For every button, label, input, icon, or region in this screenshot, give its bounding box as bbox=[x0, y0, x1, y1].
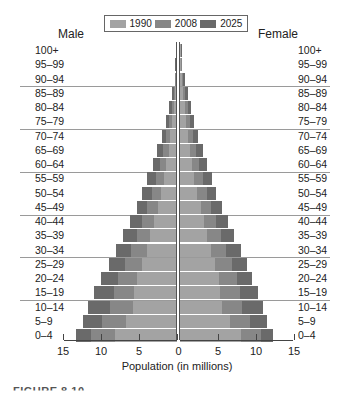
x-tick-label: 5 bbox=[129, 345, 149, 357]
x-tick bbox=[177, 334, 178, 340]
bar-female-1990 bbox=[180, 215, 204, 228]
legend-label-2008: 2008 bbox=[175, 18, 197, 29]
legend-label-2025: 2025 bbox=[220, 18, 242, 29]
bar-male-1990 bbox=[133, 301, 177, 314]
age-label-right: 95–99 bbox=[298, 58, 348, 70]
bar-male-1990 bbox=[154, 215, 177, 228]
age-label-right: 65–69 bbox=[298, 144, 348, 156]
age-label-left: 40–44 bbox=[35, 215, 87, 227]
x-tick bbox=[294, 334, 295, 340]
bar-female-1990 bbox=[180, 315, 230, 328]
age-label-right: 35–39 bbox=[298, 229, 348, 241]
legend: 1990 2008 2025 bbox=[104, 15, 248, 32]
age-label-right: 25–29 bbox=[298, 258, 348, 270]
bar-female-1990 bbox=[180, 172, 194, 185]
age-label-right: 30–34 bbox=[298, 244, 348, 256]
age-label-right: 100+ bbox=[298, 44, 348, 56]
bar-male-1990 bbox=[126, 315, 177, 328]
legend-item-1990: 1990 bbox=[110, 18, 152, 29]
age-label-left: 95–99 bbox=[35, 58, 87, 70]
age-label-left: 15–19 bbox=[35, 286, 87, 298]
bar-female-1990 bbox=[180, 73, 182, 86]
bar-male-1990 bbox=[161, 187, 177, 200]
female-title: Female bbox=[258, 27, 298, 41]
age-label-right: 10–14 bbox=[298, 301, 348, 313]
age-label-right: 20–24 bbox=[298, 272, 348, 284]
age-label-left: 10–14 bbox=[35, 301, 87, 313]
x-axis-left bbox=[64, 340, 177, 341]
bar-female-1990 bbox=[180, 58, 181, 71]
center-axis-right bbox=[179, 42, 180, 340]
x-tick-label: 10 bbox=[246, 345, 266, 357]
x-tick-label: 5 bbox=[208, 345, 228, 357]
male-title: Male bbox=[58, 27, 84, 41]
age-label-left: 45–49 bbox=[35, 201, 87, 213]
x-tick bbox=[218, 334, 219, 340]
x-tick-label: 10 bbox=[91, 345, 111, 357]
bar-female-1990 bbox=[180, 44, 181, 57]
bar-female-1990 bbox=[180, 130, 188, 143]
age-label-left: 100+ bbox=[35, 44, 87, 56]
bar-female-1990 bbox=[180, 301, 222, 314]
age-label-left: 50–54 bbox=[35, 187, 87, 199]
x-tick-label: 15 bbox=[53, 345, 73, 357]
age-label-right: 15–19 bbox=[298, 286, 348, 298]
age-label-right: 60–64 bbox=[298, 158, 348, 170]
x-tick bbox=[63, 334, 64, 340]
bar-male-1990 bbox=[134, 286, 177, 299]
x-axis-right bbox=[180, 340, 293, 341]
x-axis-label: Population (in millions) bbox=[0, 360, 354, 372]
age-label-right: 90–94 bbox=[298, 73, 348, 85]
x-tick bbox=[101, 334, 102, 340]
x-tick bbox=[256, 334, 257, 340]
bar-female-1990 bbox=[180, 258, 215, 271]
age-label-left: 75–79 bbox=[35, 115, 87, 127]
age-label-left: 60–64 bbox=[35, 158, 87, 170]
age-label-right: 70–74 bbox=[298, 130, 348, 142]
bar-female-1990 bbox=[180, 286, 220, 299]
bar-female-1990 bbox=[180, 187, 197, 200]
bar-female-1990 bbox=[180, 158, 192, 171]
age-label-right: 0–4 bbox=[298, 329, 348, 341]
age-label-right: 55–59 bbox=[298, 172, 348, 184]
age-label-left: 55–59 bbox=[35, 172, 87, 184]
bar-male-1990 bbox=[147, 244, 177, 257]
legend-item-2025: 2025 bbox=[200, 18, 242, 29]
age-label-left: 65–69 bbox=[35, 144, 87, 156]
age-label-left: 35–39 bbox=[35, 229, 87, 241]
bar-female-1990 bbox=[180, 144, 190, 157]
bar-male-1990 bbox=[158, 201, 177, 214]
bar-male-1990 bbox=[137, 272, 177, 285]
age-label-right: 5–9 bbox=[298, 315, 348, 327]
age-label-right: 40–44 bbox=[298, 215, 348, 227]
age-label-left: 25–29 bbox=[35, 258, 87, 270]
bar-female-1990 bbox=[180, 244, 211, 257]
x-tick bbox=[139, 334, 140, 340]
bar-female-1990 bbox=[180, 229, 207, 242]
bar-male-1990 bbox=[142, 258, 177, 271]
legend-item-2008: 2008 bbox=[155, 18, 197, 29]
x-tick-label: 0 bbox=[169, 345, 189, 357]
age-label-left: 70–74 bbox=[35, 130, 87, 142]
age-label-right: 50–54 bbox=[298, 187, 348, 199]
age-label-left: 20–24 bbox=[35, 272, 87, 284]
age-label-right: 75–79 bbox=[298, 115, 348, 127]
age-label-left: 85–89 bbox=[35, 87, 87, 99]
age-label-right: 85–89 bbox=[298, 87, 348, 99]
legend-swatch-2008 bbox=[155, 20, 171, 28]
figure-caption: FIGURE 8.10 bbox=[13, 385, 85, 394]
age-label-right: 45–49 bbox=[298, 201, 348, 213]
age-label-left: 90–94 bbox=[35, 73, 87, 85]
legend-label-1990: 1990 bbox=[130, 18, 152, 29]
age-label-left: 5–9 bbox=[35, 315, 87, 327]
legend-swatch-2025 bbox=[200, 20, 216, 28]
legend-swatch-1990 bbox=[110, 20, 126, 28]
bar-female-1990 bbox=[180, 101, 185, 114]
age-label-left: 80–84 bbox=[35, 101, 87, 113]
bar-male-1990 bbox=[150, 229, 177, 242]
bar-female-1990 bbox=[180, 87, 183, 100]
x-tick-label: 15 bbox=[284, 345, 304, 357]
bar-female-1990 bbox=[180, 115, 186, 128]
age-label-left: 30–34 bbox=[35, 244, 87, 256]
bar-female-1990 bbox=[180, 201, 201, 214]
